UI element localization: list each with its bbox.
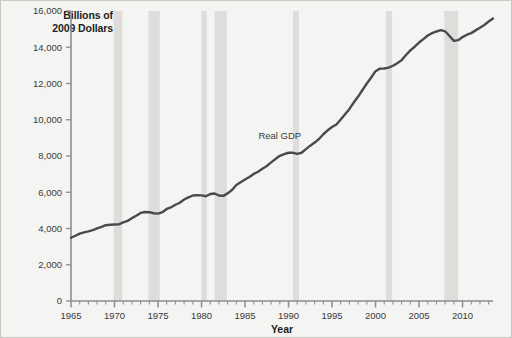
x-tick-label: 2000 [365, 310, 386, 321]
recession-band-2 [202, 11, 207, 301]
gdp-chart-figure: Billions of 2009 Dollars 02,0004,0006,00… [0, 0, 512, 338]
x-axis-title: Year [271, 323, 293, 335]
x-tick-label: 1970 [104, 310, 125, 321]
recession-band-3 [215, 11, 227, 301]
x-tick-label: 1980 [191, 310, 212, 321]
x-tick-label: 1965 [60, 310, 81, 321]
y-tick-label: 10,000 [33, 114, 62, 125]
recession-band-0 [114, 11, 123, 301]
recession-band-5 [386, 11, 392, 301]
y-tick-label: 0 [57, 295, 62, 306]
x-tick-label: 1975 [147, 310, 168, 321]
y-tick-label: 16,000 [33, 5, 62, 16]
y-tick-label: 6,000 [38, 187, 62, 198]
x-tick-label: 1990 [278, 310, 299, 321]
recession-band-6 [444, 11, 458, 301]
y-tick-label: 12,000 [33, 78, 62, 89]
y-tick-label: 2,000 [38, 259, 62, 270]
y-axis-ticks-group: 02,0004,0006,0008,00010,00012,00014,0001… [33, 5, 71, 306]
real-gdp-line [71, 19, 493, 238]
chart-plot-area: 02,0004,0006,0008,00010,00012,00014,0001… [1, 1, 512, 338]
x-tick-label: 1995 [321, 310, 342, 321]
x-tick-label: 1985 [234, 310, 255, 321]
recession-band-4 [293, 11, 299, 301]
y-tick-label: 4,000 [38, 223, 62, 234]
x-tick-label: 2010 [452, 310, 473, 321]
y-tick-label: 14,000 [33, 42, 62, 53]
y-tick-label: 8,000 [38, 150, 62, 161]
x-tick-label: 2005 [408, 310, 429, 321]
x-axis-ticks-group: 1965197019751980198519901995200020052010 [60, 301, 488, 321]
real-gdp-inline-label: Real GDP [258, 130, 301, 141]
recession-band-1 [148, 11, 159, 301]
